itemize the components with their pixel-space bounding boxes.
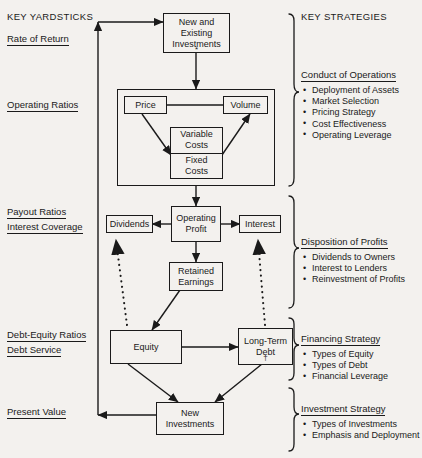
yardstick-operating-ratios: Operating Ratios (7, 99, 78, 112)
strategy-item: Dividends to Owners (301, 252, 422, 263)
strategy-title: Financing Strategy (301, 333, 380, 346)
yardstick-payout-interest: Payout Ratios Interest Coverage (7, 206, 83, 234)
brace-conduct-of-operations (289, 14, 299, 186)
node-line: Retained (178, 266, 214, 277)
yardstick-label: Present Value (7, 406, 66, 419)
strategy-item: Financial Leverage (301, 371, 422, 382)
strategy-investment-strategy: Investment Strategy Types of Investments… (301, 398, 422, 441)
node-line: Operating (176, 213, 216, 224)
strategy-item: Deployment of Assets (301, 85, 422, 96)
strategy-item: Cost Effectiveness (301, 119, 422, 130)
node-line: Variable (180, 129, 212, 140)
key-yardsticks-heading: KEY YARDSTICKS (7, 11, 93, 22)
strategy-item: Types of Debt (301, 360, 422, 371)
node-long-term-debt: Long-Term Debt† (238, 328, 293, 365)
wire-debt-to-newinvest (215, 364, 262, 402)
node-operating-profit: Operating Profit (171, 206, 221, 242)
brace-investment-strategy (289, 388, 299, 451)
strategy-item-list: Deployment of Assets Market Selection Pr… (301, 85, 422, 141)
strategy-item: Interest to Lenders (301, 263, 422, 274)
node-line: Costs (185, 166, 208, 177)
node-line-with-marker: Debt† (256, 347, 275, 358)
strategy-item: Reinvestment of Profits (301, 274, 422, 285)
wire-dividends-to-equity-dotted (116, 240, 127, 325)
node-label: Price (135, 100, 156, 111)
node-line: Costs (185, 140, 208, 151)
strategy-item: Pricing Strategy (301, 107, 422, 118)
node-new-and-existing-investments: New and Existing Investments* (163, 13, 230, 53)
node-dividends: Dividends (106, 215, 153, 233)
node-line: Profit (185, 224, 206, 235)
key-strategies-heading: KEY STRATEGIES (301, 11, 387, 22)
yardstick-label: Interest Coverage (7, 221, 83, 234)
strategy-item-list: Dividends to Owners Interest to Lenders … (301, 252, 422, 286)
strategy-item-list: Types of Equity Types of Debt Financial … (301, 349, 422, 383)
wire-interest-to-debt-dotted (258, 240, 265, 325)
node-label: Equity (133, 342, 158, 353)
node-label: Dividends (110, 219, 150, 230)
strategy-title: Investment Strategy (301, 403, 385, 416)
node-line: Earnings (178, 277, 214, 288)
yardstick-label: Rate of Return (7, 33, 69, 46)
yardstick-label: Debt Service (7, 344, 61, 357)
node-fixed-costs: Fixed Costs (171, 154, 222, 179)
node-line: Investments (166, 419, 215, 430)
yardstick-label: Debt-Equity Ratios (7, 329, 86, 342)
wire-retained-to-equity (152, 290, 180, 330)
yardstick-present-value: Present Value (7, 406, 66, 419)
strategy-financing-strategy: Financing Strategy Types of Equity Types… (301, 328, 422, 383)
node-volume: Volume (223, 96, 268, 114)
node-variable-costs: Variable Costs (171, 128, 222, 154)
strategy-item: Emphasis and Deployment (301, 430, 422, 441)
node-line: Fixed (185, 155, 207, 166)
node-line: Existing (181, 28, 213, 39)
node-interest: Interest (239, 215, 281, 233)
yardstick-rate-of-return: Rate of Return (7, 33, 69, 46)
strategy-item: Types of Equity (301, 349, 422, 360)
yardstick-label: Payout Ratios (7, 206, 66, 219)
business-system-diagram: KEY YARDSTICKS Rate of Return Operating … (0, 0, 422, 458)
node-price: Price (124, 96, 167, 114)
node-retained-earnings: Retained Earnings (169, 262, 223, 291)
strategy-item: Operating Leverage (301, 130, 422, 141)
node-line-with-marker: Investments* (172, 39, 221, 50)
brace-disposition-of-profits (289, 196, 299, 308)
node-line: New and (179, 17, 215, 28)
strategy-conduct-of-operations: Conduct of Operations Deployment of Asse… (301, 64, 422, 141)
node-line: Long-Term (244, 336, 287, 347)
node-line: New (181, 408, 199, 419)
node-label: Volume (230, 100, 260, 111)
strategy-item-list: Types of Investments Emphasis and Deploy… (301, 419, 422, 441)
yardstick-label: Operating Ratios (7, 99, 78, 112)
node-new-investments: New Investments (156, 402, 224, 435)
strategy-title: Disposition of Profits (301, 236, 388, 249)
yardstick-debt-equity-service: Debt-Equity Ratios Debt Service (7, 329, 86, 357)
strategy-item: Market Selection (301, 96, 422, 107)
node-equity: Equity (110, 330, 182, 364)
strategy-title: Conduct of Operations (301, 69, 396, 82)
node-costs-split: Variable Costs Fixed Costs (170, 127, 223, 179)
node-label: Interest (245, 219, 275, 230)
strategy-item: Types of Investments (301, 419, 422, 430)
strategy-braces (289, 14, 299, 451)
wire-equity-to-newinvest (128, 364, 178, 402)
strategy-disposition-of-profits: Disposition of Profits Dividends to Owne… (301, 231, 422, 286)
